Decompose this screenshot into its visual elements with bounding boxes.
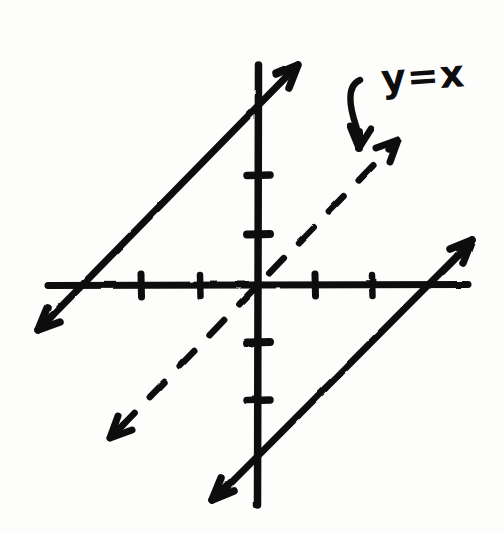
- y-tick-pos2: [247, 175, 270, 176]
- y-tick-neg1: [247, 342, 270, 343]
- x-tick-neg1: [200, 275, 201, 296]
- line-y-equals-x-minus-3: [212, 240, 472, 500]
- x-tick-pos1: [315, 274, 316, 296]
- annotation-label-y-equals-x: y=x: [380, 51, 467, 101]
- y-tick-neg2: [247, 400, 270, 401]
- x-tick-neg2: [141, 274, 142, 297]
- line-y-equals-x-dashed: [110, 140, 398, 438]
- y-axis-line: [258, 65, 259, 505]
- hand-drawn-graph-figure: y=x: [0, 0, 504, 534]
- annotation-group: [350, 80, 371, 148]
- y-tick-pos1: [247, 234, 270, 235]
- coordinate-plane-canvas: y=x: [0, 0, 504, 534]
- x-tick-pos2: [372, 275, 373, 296]
